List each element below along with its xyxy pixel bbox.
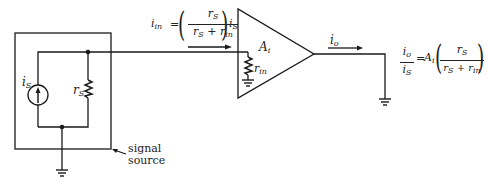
ground-icon bbox=[379, 99, 391, 105]
amplifier-triangle-icon bbox=[238, 9, 314, 98]
input-resistor-icon bbox=[245, 57, 252, 75]
left-paren: ( bbox=[178, 7, 185, 41]
equation-lhs: iin bbox=[151, 18, 162, 31]
equation-rhs: iS bbox=[229, 18, 238, 31]
amplifier-gain-label: Ai bbox=[259, 41, 270, 55]
signal-source-caption: signal source bbox=[128, 143, 165, 167]
junction-dot bbox=[60, 125, 65, 130]
output-current-label: io bbox=[330, 34, 339, 48]
source-resistor-icon bbox=[85, 80, 92, 98]
output-ratio: io iS bbox=[400, 46, 414, 79]
current-source-label: iS bbox=[22, 76, 31, 90]
right-paren: ) bbox=[221, 7, 228, 41]
ground-icon bbox=[56, 170, 68, 176]
ground-icon bbox=[242, 80, 254, 86]
junction-dot bbox=[86, 50, 91, 55]
source-resistor-label: rS bbox=[73, 84, 84, 98]
gain-symbol: Ai bbox=[424, 52, 435, 65]
right-paren: ) bbox=[477, 40, 484, 74]
output-wire bbox=[314, 54, 385, 99]
input-resistor-label: rin bbox=[254, 63, 267, 76]
source-top-wire bbox=[38, 52, 88, 85]
